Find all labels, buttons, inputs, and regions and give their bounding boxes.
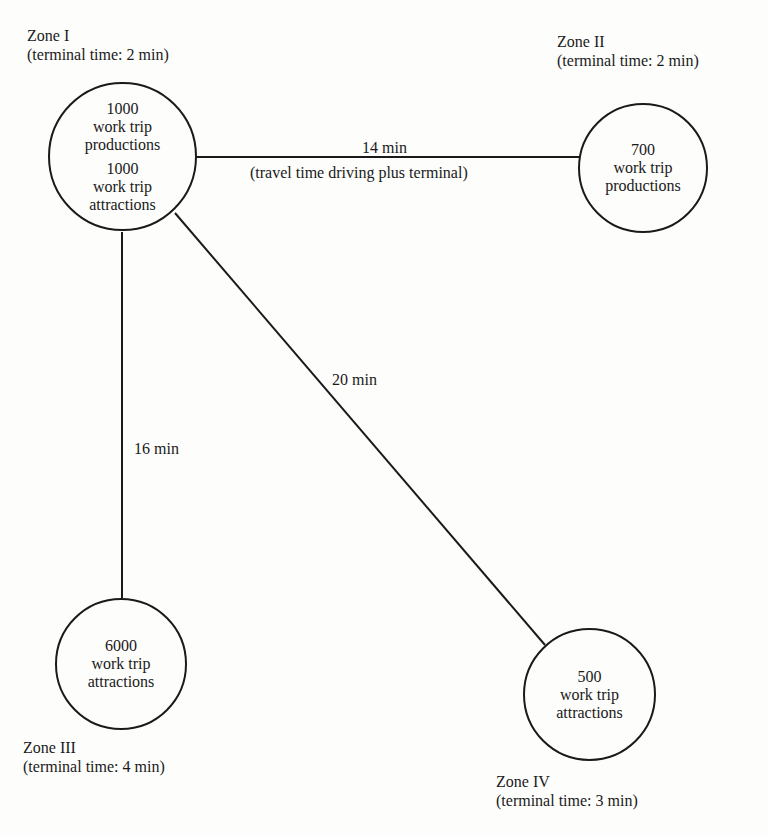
zone-4-attractions-value: 500: [577, 668, 601, 686]
zone-2-name: Zone II: [557, 32, 699, 51]
zone-3-attractions: 6000 work trip attractions: [88, 637, 155, 691]
zone-4-attractions-line2: attractions: [556, 704, 623, 722]
zone-1-attractions-line2: attractions: [89, 196, 156, 214]
zone-2-productions-line1: work trip: [613, 159, 672, 177]
zone-3-attractions-line1: work trip: [91, 655, 150, 673]
link-1-2-note: (travel time driving plus terminal): [250, 163, 468, 182]
zone-4-attractions: 500 work trip attractions: [556, 668, 623, 722]
zone-2-terminal-time: (terminal time: 2 min): [557, 51, 699, 70]
zone-3-attractions-value: 6000: [105, 637, 137, 655]
zone-2-productions-value: 700: [631, 141, 655, 159]
zone-1-productions: 1000 work trip productions: [85, 100, 161, 154]
zone-3-node: 6000 work trip attractions: [55, 598, 187, 730]
zone-1-productions-value: 1000: [106, 100, 138, 118]
zone-1-attractions-value: 1000: [106, 160, 138, 178]
zone-3-terminal-time: (terminal time: 4 min): [23, 757, 165, 776]
link-1-2-time: 14 min: [362, 138, 407, 157]
zone-1-productions-line2: productions: [85, 136, 161, 154]
zone-1-attractions: 1000 work trip attractions: [89, 160, 156, 214]
zone-1-label: Zone I (terminal time: 2 min): [27, 26, 169, 64]
zone-2-productions-line2: productions: [605, 177, 681, 195]
link-1-4-time: 20 min: [332, 370, 377, 389]
zone-4-terminal-time: (terminal time: 3 min): [496, 791, 638, 810]
zone-4-attractions-line1: work trip: [560, 686, 619, 704]
zone-1-name: Zone I: [27, 26, 169, 45]
zone-4-node: 500 work trip attractions: [523, 628, 656, 761]
zone-1-node: 1000 work trip productions 1000 work tri…: [48, 82, 197, 231]
zone-2-node: 700 work trip productions: [578, 103, 708, 233]
zone-2-productions: 700 work trip productions: [605, 141, 681, 195]
zone-4-label: Zone IV (terminal time: 3 min): [496, 772, 638, 810]
zone-3-attractions-line2: attractions: [88, 673, 155, 691]
zone-1-attractions-line1: work trip: [93, 178, 152, 196]
link-zone1-zone4: [175, 213, 545, 645]
zone-3-label: Zone III (terminal time: 4 min): [23, 738, 165, 776]
link-1-3-time: 16 min: [134, 439, 179, 458]
zone-3-name: Zone III: [23, 738, 165, 757]
zone-1-productions-line1: work trip: [93, 118, 152, 136]
zone-4-name: Zone IV: [496, 772, 638, 791]
zone-2-label: Zone II (terminal time: 2 min): [557, 32, 699, 70]
zone-1-terminal-time: (terminal time: 2 min): [27, 45, 169, 64]
